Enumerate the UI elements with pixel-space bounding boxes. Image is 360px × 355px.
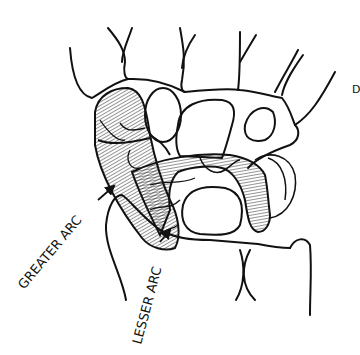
greater-arc-label: GREATER ARC <box>15 213 85 292</box>
wrist-diagram: GREATER ARC LESSER ARC D <box>0 0 360 355</box>
panel-letter: D <box>352 83 360 96</box>
lesser-arc-label: LESSER ARC <box>129 265 164 346</box>
distal-carpal-row <box>145 88 275 158</box>
